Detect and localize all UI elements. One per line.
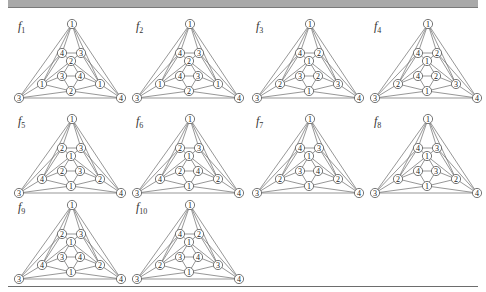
vertex-color-label: 3 [79, 144, 83, 153]
vertex-color-label: 1 [425, 57, 429, 66]
vertex-mid: 1 [304, 56, 313, 66]
vertex-sl: 4 [155, 174, 164, 184]
edge-mid-sl [398, 156, 427, 179]
vertex-color-label: 3 [298, 72, 302, 81]
vertex-ur: 2 [194, 229, 203, 239]
vertex-outr: 4 [234, 93, 243, 103]
edge-mid-sl [42, 156, 71, 179]
vertex-sr: 3 [451, 79, 460, 89]
vertex-ir: 4 [75, 71, 84, 81]
vertex-color-label: 3 [79, 230, 83, 239]
edge-top-sl [42, 24, 72, 84]
vertex-color-label: 1 [70, 20, 74, 29]
vertex-ul: 4 [295, 48, 304, 58]
edge-ur-outr [199, 148, 239, 193]
vertex-bot: 1 [422, 86, 431, 96]
vertex-ir: 4 [75, 252, 84, 262]
vertex-color-label: 4 [416, 167, 420, 176]
vertex-color-label: 4 [475, 189, 479, 198]
vertex-bot: 1 [304, 86, 313, 96]
coloring-label-index: 4 [377, 26, 381, 35]
graph-drawing: 14314322134 [364, 104, 486, 200]
vertex-color-label: 2 [158, 261, 162, 270]
edge-ul-outl [19, 234, 62, 279]
edge-ur-outr [81, 234, 121, 279]
vertex-color-label: 1 [158, 80, 162, 89]
vertex-color-label: 2 [69, 87, 73, 96]
edge-mid-sr [427, 61, 456, 84]
vertex-il: 3 [295, 71, 304, 81]
vertex-mid: 1 [422, 151, 431, 161]
graph-drawing: 12313442134 [8, 190, 130, 286]
vertex-sl: 4 [37, 174, 46, 184]
vertex-color-label: 2 [278, 175, 282, 184]
vertex-sl: 1 [155, 79, 164, 89]
vertex-color-label: 1 [426, 20, 430, 29]
vertex-mid: 1 [304, 151, 313, 161]
vertex-color-label: 1 [187, 268, 191, 277]
coloring-label-index: 7 [259, 121, 263, 130]
vertex-color-label: 3 [135, 94, 139, 103]
edge-bot-outr [189, 91, 239, 98]
vertex-color-label: 4 [298, 144, 302, 153]
edge-ul-outl [19, 148, 62, 193]
graph-drawing: 14214223134 [364, 9, 486, 105]
vertex-il: 3 [57, 71, 66, 81]
vertex-sr: 3 [213, 260, 222, 270]
vertex-ul: 2 [57, 229, 66, 239]
vertex-color-label: 2 [178, 167, 182, 176]
vertex-color-label: 1 [188, 201, 192, 210]
vertex-outr: 4 [234, 274, 243, 284]
edge-ul-outl [257, 148, 300, 193]
edge-bot-outl [19, 91, 71, 98]
vertex-ir: 4 [193, 166, 202, 176]
edge-ur-outr [81, 53, 121, 98]
vertex-color-label: 2 [69, 57, 73, 66]
edge-mid-sl [160, 156, 189, 179]
edge-ul-outl [375, 53, 418, 98]
vertex-il: 4 [413, 71, 422, 81]
coloring-label-index: 5 [21, 121, 25, 130]
vertex-sl: 1 [37, 79, 46, 89]
edge-mid-sl [280, 156, 309, 179]
vertex-color-label: 1 [70, 115, 74, 124]
vertex-color-label: 2 [336, 175, 340, 184]
vertex-ir: 3 [75, 166, 84, 176]
vertex-outl: 3 [370, 188, 379, 198]
coloring-label-index: 9 [21, 207, 25, 216]
vertex-il: 3 [295, 166, 304, 176]
coloring-label: f9 [18, 200, 25, 216]
vertex-mid: 2 [66, 56, 75, 66]
vertex-color-label: 4 [316, 167, 320, 176]
vertex-color-label: 4 [178, 230, 182, 239]
vertex-color-label: 1 [308, 115, 312, 124]
coloring-label: f4 [374, 19, 381, 35]
edge-top-sl [398, 24, 428, 84]
vertex-color-label: 1 [69, 152, 73, 161]
edge-top-sl [42, 119, 72, 179]
vertex-sl: 4 [37, 260, 46, 270]
edge-ur-outr [199, 53, 239, 98]
vertex-color-label: 2 [197, 230, 201, 239]
vertex-color-label: 2 [434, 72, 438, 81]
vertex-ir: 2 [431, 71, 440, 81]
vertex-color-label: 2 [98, 175, 102, 184]
edge-mid-sr [189, 61, 218, 84]
vertex-color-label: 3 [196, 72, 200, 81]
vertex-color-label: 3 [17, 275, 21, 284]
vertex-color-label: 1 [425, 87, 429, 96]
vertex-color-label: 3 [373, 94, 377, 103]
edge-ul-outl [137, 148, 180, 193]
coloring-label-index: 8 [377, 121, 381, 130]
edge-ul-outl [375, 148, 418, 193]
vertex-sr: 2 [95, 260, 104, 270]
vertex-sr: 2 [333, 174, 342, 184]
graph-drawing: 14323411234 [8, 9, 130, 105]
edge-top-sl [42, 205, 72, 265]
vertex-color-label: 1 [40, 80, 44, 89]
graph-panel-f3: 14213223134f3 [246, 9, 366, 101]
vertex-color-label: 2 [98, 261, 102, 270]
edge-bot-outl [137, 91, 189, 98]
vertex-outl: 3 [252, 188, 261, 198]
vertex-color-label: 3 [255, 189, 259, 198]
